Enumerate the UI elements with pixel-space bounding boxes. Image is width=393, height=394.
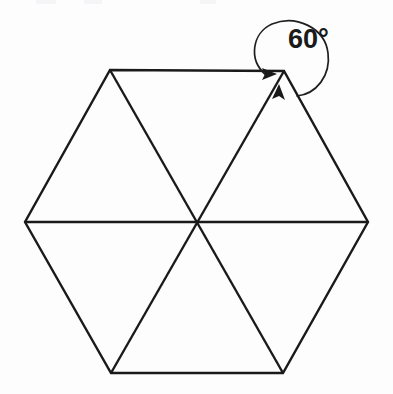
angle-label: 60° [288, 24, 329, 54]
hexagon-diagram: Regular hexagon divided into six equilat… [0, 0, 393, 394]
figure-container: Regular hexagon divided into six equilat… [0, 0, 393, 394]
